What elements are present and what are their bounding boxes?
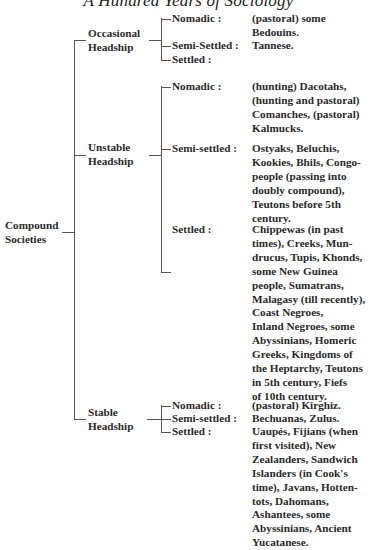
value-line: tots, Dahomans, — [252, 495, 329, 507]
value-line: Ashantees, some — [252, 508, 330, 520]
value-line: Chippewas (in past — [252, 223, 343, 235]
group-connector — [74, 419, 86, 420]
running-header: A Hundred Years of Sociology — [0, 0, 377, 11]
row-value: Bechuanas, Zulus. — [252, 412, 339, 426]
root-label-line: Societies — [5, 233, 46, 245]
value-line: Comanches, (pastoral) — [252, 108, 360, 120]
root-connector — [62, 232, 74, 233]
row-label: Semi-settled : — [172, 142, 237, 156]
value-line: time), Javans, Hotten- — [252, 481, 358, 493]
group-label-line: Headship — [88, 155, 133, 167]
row-label: Nomadic : — [172, 12, 221, 26]
value-line: Abyssinians, Homeric — [252, 334, 356, 346]
value-line: Bedouins. — [252, 26, 299, 38]
group-label-occasional-headship: Occasional Headship — [88, 27, 140, 55]
root-label: Compound Societies — [5, 219, 58, 247]
row-value: Ostyaks, Beluchis, Kookies, Bhils, Congo… — [252, 142, 361, 225]
value-line: Uaupés, Fijians (when — [252, 425, 358, 437]
value-line: (pastoral) some — [252, 12, 326, 24]
group-bracket — [161, 86, 162, 273]
group-label-line: Unstable — [88, 141, 130, 153]
group-label-line: Stable — [88, 406, 118, 418]
row-label: Settled : — [172, 223, 211, 237]
row-label: Semi-settled : — [172, 412, 237, 426]
value-line: Malagasy (till recently), — [252, 293, 365, 305]
value-line: Greeks, Kingdoms of — [252, 348, 353, 360]
row-connector — [161, 406, 171, 407]
group-bracket — [161, 18, 162, 61]
value-line: times), Creeks, Mun- — [252, 237, 352, 249]
row-connector — [161, 432, 171, 433]
row-connector — [161, 46, 171, 47]
group-connector — [149, 40, 161, 41]
value-line: in 5th century, Fiefs — [252, 376, 347, 388]
group-connector — [147, 419, 161, 420]
value-line: Coast Negroes, — [252, 306, 323, 318]
value-line: Yucatanese. — [252, 536, 308, 548]
group-label-unstable-headship: Unstable Headship — [88, 141, 133, 169]
value-line: first visited), New — [252, 439, 336, 451]
value-line: century. — [252, 212, 291, 224]
value-line: drucus, Tupis, Khonds, — [252, 251, 362, 263]
row-connector — [161, 272, 171, 273]
row-value: (hunting) Dacotahs, (hunting and pastora… — [252, 80, 360, 136]
row-connector — [161, 60, 171, 61]
row-connector — [161, 87, 171, 88]
value-line: (hunting) Dacotahs, — [252, 80, 347, 92]
group-connector — [74, 40, 86, 41]
group-label-line: Headship — [88, 420, 133, 432]
row-label: Nomadic : — [172, 80, 221, 94]
value-line: Abyssinians, Ancient — [252, 522, 351, 534]
value-line: people (passing into — [252, 170, 347, 182]
row-label: Settled : — [172, 53, 211, 67]
value-line: doubly compound), — [252, 184, 345, 196]
row-connector — [161, 19, 171, 20]
row-label: Semi-Settled : — [172, 39, 239, 53]
value-line: Teutons before 5th — [252, 198, 341, 210]
group-label-line: Headship — [88, 41, 133, 53]
row-value: Uaupés, Fijians (when first visited), Ne… — [252, 425, 358, 550]
value-line: the Heptarchy, Teutons — [252, 362, 363, 374]
value-line: Ostyaks, Beluchis, — [252, 142, 339, 154]
row-value: (pastoral) Kirghiz. — [252, 399, 341, 413]
group-connector — [74, 155, 86, 156]
root-bracket — [74, 40, 75, 420]
row-label: Settled : — [172, 425, 211, 439]
value-line: Islanders (in Cook's — [252, 467, 348, 479]
group-connector — [149, 155, 161, 156]
value-line: people, Sumatrans, — [252, 279, 344, 291]
group-label-stable-headship: Stable Headship — [88, 406, 133, 434]
value-line: some New Guinea — [252, 265, 338, 277]
value-line: Kookies, Bhils, Congo- — [252, 156, 361, 168]
group-label-line: Occasional — [88, 27, 140, 39]
row-connector — [161, 149, 171, 150]
row-label: Nomadic : — [172, 399, 221, 413]
value-line: (hunting and pastoral) — [252, 94, 360, 106]
row-connector — [161, 419, 171, 420]
root-label-line: Compound — [5, 219, 58, 231]
value-line: Zealanders, Sandwich — [252, 453, 358, 465]
row-value: Tannese. — [252, 39, 294, 53]
row-value: Chippewas (in past times), Creeks, Mun- … — [252, 223, 365, 404]
value-line: Inland Negroes, some — [252, 320, 355, 332]
value-line: Kalmucks. — [252, 122, 303, 134]
row-value: (pastoral) some Bedouins. — [252, 12, 326, 40]
